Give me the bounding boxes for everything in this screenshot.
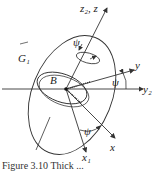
y-axis-label: y bbox=[134, 59, 140, 71]
z-axis-label: z₂, z bbox=[79, 2, 99, 14]
y2-axis-label: y₂ bbox=[142, 83, 152, 95]
inner-disk-ellipse bbox=[33, 66, 91, 110]
inner-disk-rim bbox=[35, 69, 93, 113]
psi-arc-right bbox=[123, 73, 126, 89]
psi-label-right: ψ bbox=[112, 76, 119, 88]
g1-label: G₁ bbox=[18, 52, 30, 64]
g1-chord-1 bbox=[36, 117, 50, 150]
b-label: B bbox=[50, 74, 57, 86]
psi-label-bottom: ψ bbox=[84, 125, 91, 137]
z-axis-line bbox=[66, 8, 107, 89]
psi-label-top: ψ bbox=[73, 36, 80, 48]
rotation-ellipse-arrow bbox=[90, 56, 96, 59]
origin-point bbox=[64, 87, 68, 91]
diagram: z₂, z y y₂ x x₁ G₁ B ψ ψ ψ bbox=[0, 0, 156, 173]
x-axis-label: x bbox=[109, 141, 115, 153]
g1-chord-2 bbox=[20, 42, 28, 44]
figure-caption: Figure 3.10 Thick ... bbox=[2, 160, 84, 171]
